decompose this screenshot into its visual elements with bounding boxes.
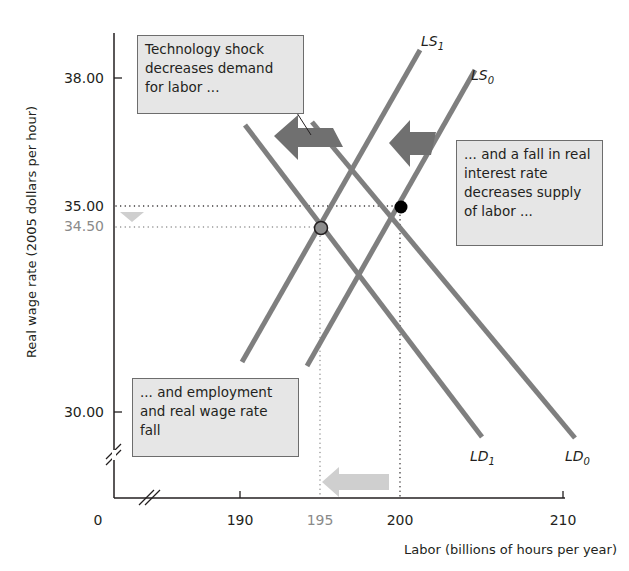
ld-shift-arrow-icon <box>274 115 343 160</box>
label-ls0: LS0 <box>471 67 494 86</box>
x-axis-title: Labor (billions of hours per year) <box>404 542 617 557</box>
label-ls1: LS1 <box>421 33 444 52</box>
x-tick-0: 0 <box>94 512 103 528</box>
x-tick-195: 195 <box>307 512 334 528</box>
x-tick-200: 200 <box>387 512 414 528</box>
callout-result: ... and employment and real wage rate fa… <box>132 378 299 457</box>
ls-shift-arrow-icon <box>389 120 436 167</box>
wage-fall-arrow-icon <box>120 212 144 222</box>
y-tick-35: 35.00 <box>64 198 104 214</box>
callout-demand: Technology shock decreases demand for la… <box>137 35 304 114</box>
x-tick-210: 210 <box>550 512 577 528</box>
chart-canvas: 38.00 35.00 34.50 30.00 0 190 195 200 21… <box>0 0 629 571</box>
x-tick-190: 190 <box>227 512 254 528</box>
label-ld0: LD0 <box>565 448 590 467</box>
curve-ls0 <box>307 70 475 366</box>
y-tick-34-50: 34.50 <box>64 218 104 234</box>
equilibrium-initial <box>395 201 408 214</box>
equilibrium-new <box>315 222 328 235</box>
employment-fall-arrow-icon <box>322 467 389 497</box>
y-axis-title: Real wage rate (2005 dollars per hour) <box>24 106 39 358</box>
y-tick-30: 30.00 <box>64 404 104 420</box>
y-tick-38: 38.00 <box>64 70 104 86</box>
label-ld1: LD1 <box>470 448 495 467</box>
callout-supply: ... and a fall in real interest rate dec… <box>456 140 603 246</box>
